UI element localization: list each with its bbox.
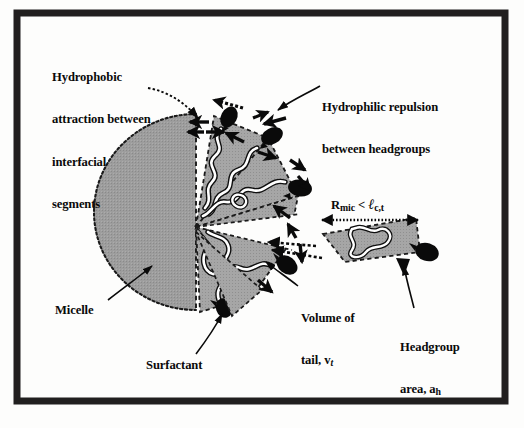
label-rmic-subscript: mic [340,202,355,213]
label-volume-line2: tail, vt [301,353,355,368]
label-radius-relation: Rmic < ℓc,t [331,196,384,213]
label-hydrophilic-repulsion: Hydrophilic repulsion between headgroups [322,72,438,185]
label-lct-subscript: c,t [374,202,384,213]
label-rmic-symbol: R [331,198,340,212]
label-volume-prefix: tail, v [301,353,330,367]
label-hydrophilic-line1: Hydrophilic repulsion [322,100,438,114]
label-volume-subscript: t [330,358,333,369]
label-hydrophobic-line2: attraction between [52,112,151,126]
label-headgroup-line1: Headgroup [400,340,460,354]
figure-root: Hydrophobic attraction between interfaci… [0,0,524,428]
label-volume-line1: Volume of [301,311,355,325]
detached-wedge-right [323,218,441,276]
label-hydrophobic-line3: interfacial [52,155,151,169]
label-hydrophobic-attraction: Hydrophobic attraction between interfaci… [52,42,151,239]
headgroup-upper-right [258,124,286,149]
label-surfactant: Surfactant [146,358,202,372]
label-hydrophobic-line1: Hydrophobic [52,70,151,84]
label-hydrophilic-line2: between headgroups [322,142,438,156]
label-headgroup-prefix: area, a [400,382,435,396]
label-rmic-operator: < [355,198,368,212]
label-headgroup-line2: area, ah [400,382,460,397]
label-volume-of-tail: Volume of tail, vt [301,283,355,397]
label-hydrophobic-line4: segments [52,197,151,211]
label-micelle: Micelle [55,303,93,317]
label-headgroup-subscript: h [435,387,440,398]
label-headgroup-area: Headgroup area, ah [400,312,460,426]
